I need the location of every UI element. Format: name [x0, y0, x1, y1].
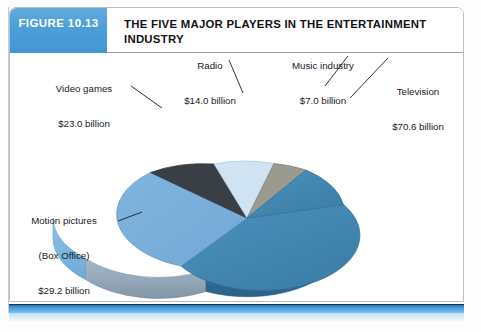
label-motion-pictures-line3: $29.2 billion	[9, 285, 120, 297]
label-motion-pictures: Motion pictures (Box Office) $29.2 billi…	[9, 192, 120, 302]
figure-number-label: FIGURE 10.13	[18, 17, 98, 29]
label-music-industry: Music industry $7.0 billion	[268, 37, 378, 130]
label-radio: Radio $14.0 billion	[162, 37, 258, 130]
label-television-line2: $70.6 billion	[372, 121, 464, 133]
label-video-games-line2: $23.0 billion	[28, 118, 140, 130]
bottom-accent-fade	[9, 313, 464, 322]
label-motion-pictures-line1: Motion pictures	[9, 215, 120, 227]
label-video-games: Video games $23.0 billion	[28, 60, 140, 153]
label-television-line1: Television	[372, 86, 464, 98]
label-motion-pictures-line2: (Box Office)	[9, 250, 120, 262]
label-television: Television $70.6 billion	[372, 63, 464, 156]
label-radio-line2: $14.0 billion	[162, 95, 258, 107]
figure-footnote	[14, 324, 314, 332]
label-music-industry-line2: $7.0 billion	[268, 95, 378, 107]
figure-title-line1: THE FIVE MAJOR PLAYERS IN THE ENTERTAINM…	[124, 17, 451, 32]
figure-number-badge: FIGURE 10.13	[10, 8, 107, 53]
figure-screenshot: FIGURE 10.13 THE FIVE MAJOR PLAYERS IN T…	[0, 0, 481, 332]
label-music-industry-line1: Music industry	[268, 60, 378, 72]
chart-area: Video games $23.0 billion Radio $14.0 bi…	[10, 53, 463, 301]
label-radio-line1: Radio	[162, 60, 258, 72]
label-video-games-line1: Video games	[28, 83, 140, 95]
figure-card: FIGURE 10.13 THE FIVE MAJOR PLAYERS IN T…	[9, 7, 464, 302]
